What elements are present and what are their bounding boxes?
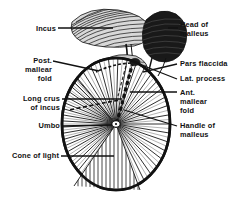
label-lat-process: Lat. process (180, 74, 232, 83)
label-handle-of-malleus: Handle of malleus (180, 121, 232, 139)
label-incus: Incus (6, 24, 56, 33)
label-ant-mallear-fold: Ant. mallear fold (180, 88, 232, 116)
label-post-mallear-fold: Post. mallear fold (2, 56, 52, 84)
anatomical-figure: Incus Post. mallear fold Long crus of in… (0, 0, 232, 197)
umbo-shape (112, 121, 120, 128)
label-umbo: Umbo (6, 121, 60, 130)
label-long-crus-of-incus: Long crus of incus (2, 94, 60, 112)
label-pars-flaccida: Pars flaccida (180, 59, 232, 68)
label-cone-of-light: Cone of light (1, 151, 59, 160)
label-head-of-malleus: Head of malleus (180, 20, 232, 38)
